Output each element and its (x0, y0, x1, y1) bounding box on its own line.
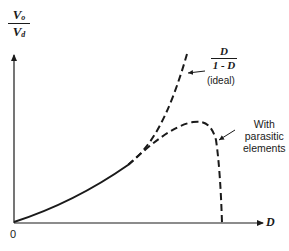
curve-common-solid (14, 165, 128, 222)
ideal-leader-arrow (188, 71, 205, 73)
ideal-label-denominator: 1 - D (211, 60, 237, 71)
ideal-note: (ideal) (207, 75, 235, 86)
y-axis-label: Vo Vd (8, 8, 30, 39)
parasitic-label-line-2: parasitic (243, 130, 286, 142)
ideal-label-numerator: D (211, 46, 237, 57)
curve-parasitic (128, 122, 222, 223)
parasitic-leader-arrow (219, 130, 235, 140)
parasitic-label-line-3: elements (243, 142, 286, 154)
ideal-curve-label: D 1 - D (211, 46, 237, 71)
parasitic-label-line-1: With (243, 118, 286, 130)
curve-ideal (128, 54, 187, 165)
y-label-denominator-sub: d (21, 30, 25, 39)
parasitic-curve-label: With parasitic elements (243, 118, 286, 154)
y-label-numerator-sub: o (21, 13, 25, 22)
origin-label: 0 (10, 228, 16, 240)
x-axis-label: D (266, 215, 275, 230)
